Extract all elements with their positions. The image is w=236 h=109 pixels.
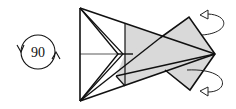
fold-arrow-upper-icon [200,10,224,35]
origami-diagram: 90 [0,0,236,109]
rotate-90-symbol: 90 [17,35,60,69]
rotation-label: 90 [31,45,45,60]
rotate-arrowhead-right-icon [52,52,60,59]
rotate-arrowhead-left-icon [17,45,24,52]
